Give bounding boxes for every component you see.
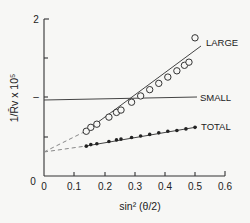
large-point xyxy=(165,74,171,80)
total-point xyxy=(107,140,111,144)
x-tick-0.5: 0.5 xyxy=(188,181,202,192)
label-small: SMALL xyxy=(200,92,231,103)
x-axis-label: sin² (θ/2) xyxy=(119,200,160,212)
total-point xyxy=(119,137,123,141)
total-point xyxy=(139,134,143,138)
large-point xyxy=(137,93,143,99)
series-labels: LARGE SMALL TOTAL xyxy=(200,37,238,132)
total-point xyxy=(95,142,99,146)
x-tick-0.1: 0.1 xyxy=(67,181,81,192)
total-point xyxy=(115,138,119,142)
label-large: LARGE xyxy=(206,37,238,48)
total-point xyxy=(157,131,161,135)
total-series xyxy=(84,126,196,148)
x-tick-0: 0 xyxy=(41,181,47,192)
total-point xyxy=(184,127,188,131)
large-point xyxy=(88,124,94,130)
label-total: TOTAL xyxy=(201,121,231,132)
x-tick-0.2: 0.2 xyxy=(98,181,112,192)
x-tick-0.6: 0.6 xyxy=(218,181,232,192)
y-tick-2: 2 xyxy=(33,14,39,25)
scatter-chart: 2 – 0 0 0.1 0.2 0.3 0.4 0.5 0.6 sin² (θ/… xyxy=(0,0,250,223)
fit-lines xyxy=(44,46,201,152)
axes xyxy=(44,19,225,176)
total-point xyxy=(166,129,170,133)
total-fit-dashed xyxy=(44,146,86,152)
y-tick-1: – xyxy=(33,91,39,102)
total-point xyxy=(130,136,134,140)
large-point xyxy=(147,86,153,92)
large-point xyxy=(192,35,198,41)
total-point xyxy=(148,133,152,137)
x-tick-0.3: 0.3 xyxy=(128,181,142,192)
large-point xyxy=(128,99,134,105)
total-point xyxy=(89,143,93,147)
large-series xyxy=(83,35,198,135)
large-point xyxy=(118,107,124,113)
y-axis-label: 1/R̄v x 10⁵ xyxy=(8,74,20,123)
large-point xyxy=(156,80,162,86)
large-point xyxy=(186,59,192,65)
x-tick-0.4: 0.4 xyxy=(158,181,172,192)
total-point xyxy=(193,126,197,130)
large-fit-solid xyxy=(86,46,201,131)
y-tick-0: 0 xyxy=(30,176,36,187)
large-point xyxy=(174,68,180,74)
large-point xyxy=(106,114,112,120)
small-line xyxy=(44,97,197,100)
total-point xyxy=(175,129,179,133)
total-point xyxy=(84,144,88,148)
large-point xyxy=(94,121,100,127)
